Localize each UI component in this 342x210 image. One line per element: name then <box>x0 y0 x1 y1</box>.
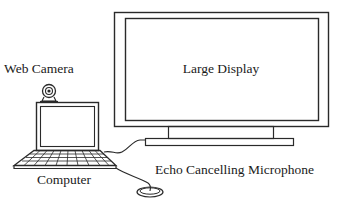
display-cable <box>104 140 146 153</box>
laptop-icon <box>14 103 116 169</box>
webcam-icon <box>40 85 58 102</box>
display-stand-base <box>146 139 294 146</box>
computer-label: Computer <box>37 172 91 187</box>
microphone-label: Echo Cancelling Microphone <box>155 162 314 177</box>
display-stand-neck <box>169 127 274 139</box>
large-display: Large Display <box>115 13 329 146</box>
setup-diagram: Large Display Web Camera Computer <box>0 0 342 210</box>
web-camera-label: Web Camera <box>4 61 74 76</box>
large-display-label: Large Display <box>183 61 260 76</box>
